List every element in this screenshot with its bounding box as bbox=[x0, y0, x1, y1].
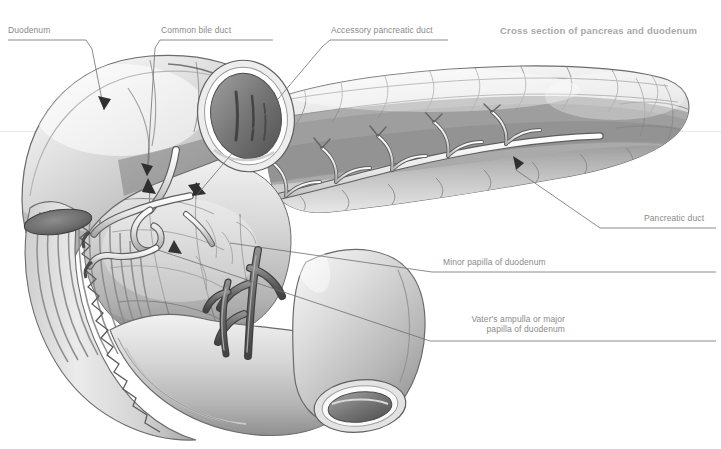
label-vater-ampulla-line1: Vater's ampulla or major bbox=[471, 314, 565, 324]
figure-title: Cross section of pancreas and duodenum bbox=[500, 25, 697, 36]
label-pancreatic-duct: Pancreatic duct bbox=[644, 213, 704, 223]
illustration-canvas: Duodenum Common bile duct Accessory panc… bbox=[0, 0, 721, 449]
label-vater-ampulla: Vater's ampulla or major papilla of duod… bbox=[447, 314, 565, 334]
leader-arrowheads bbox=[98, 96, 524, 196]
leader-lines bbox=[0, 0, 721, 449]
label-common-bile-duct: Common bile duct bbox=[161, 25, 231, 35]
label-minor-papilla: Minor papilla of duodenum bbox=[443, 257, 546, 267]
label-accessory-pancreatic-duct: Accessory pancreatic duct bbox=[331, 25, 433, 35]
label-duodenum: Duodenum bbox=[8, 25, 50, 35]
label-vater-ampulla-line2: papilla of duodenum bbox=[487, 324, 565, 334]
